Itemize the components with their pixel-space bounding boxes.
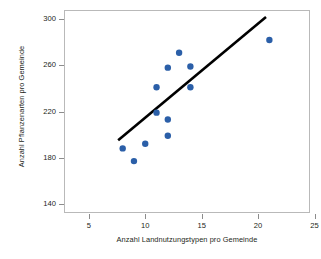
y-tick-mark bbox=[59, 204, 64, 205]
x-tick-mark bbox=[202, 214, 203, 219]
x-tick-mark bbox=[145, 214, 146, 219]
y-tick-label: 180 bbox=[43, 153, 56, 162]
x-tick-label: 20 bbox=[248, 221, 268, 230]
y-tick-mark bbox=[59, 112, 64, 113]
y-tick-label: 220 bbox=[43, 107, 56, 116]
x-tick-label: 10 bbox=[135, 221, 155, 230]
y-tick-label: 260 bbox=[43, 60, 56, 69]
x-tick-label: 25 bbox=[305, 221, 321, 230]
y-tick-label: 300 bbox=[43, 14, 56, 23]
plot-area bbox=[64, 10, 310, 213]
y-tick-mark bbox=[59, 158, 64, 159]
x-axis-title: Anzahl Landnutzungstypen pro Gemeinde bbox=[64, 235, 310, 244]
x-tick-label: 5 bbox=[79, 221, 99, 230]
y-tick-mark bbox=[59, 19, 64, 20]
x-tick-mark bbox=[89, 214, 90, 219]
x-tick-label: 15 bbox=[192, 221, 212, 230]
y-tick-mark bbox=[59, 65, 64, 66]
x-tick-mark bbox=[315, 214, 316, 219]
scatter-chart: Anzahl Pflanzenarten pro Gemeinde Anzahl… bbox=[0, 0, 321, 259]
y-axis-title: Anzahl Pflanzenarten pro Gemeinde bbox=[14, 0, 28, 213]
y-tick-label: 140 bbox=[43, 199, 56, 208]
x-tick-mark bbox=[258, 214, 259, 219]
